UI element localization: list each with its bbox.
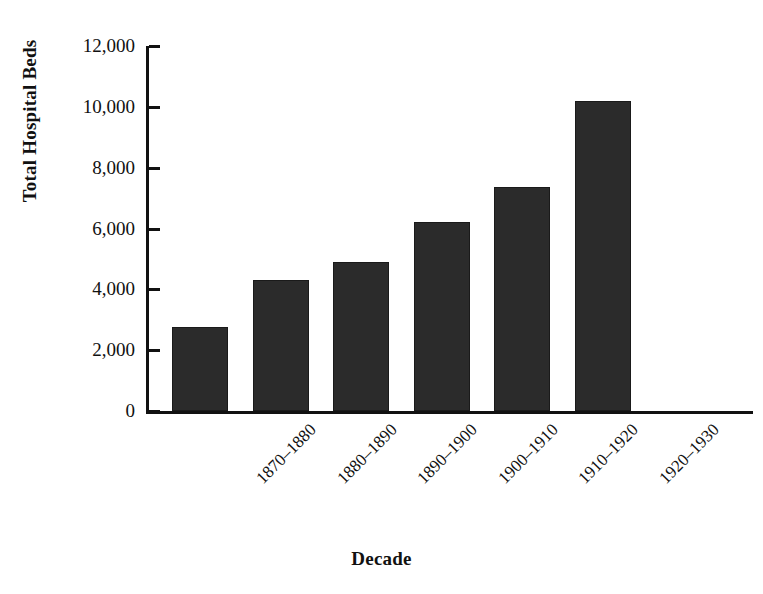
bar — [575, 101, 631, 411]
y-axis-title: Total Hospital Beds — [19, 11, 41, 231]
bar-chart: Total Hospital Beds 12,00010,0008,0006,0… — [0, 0, 763, 594]
y-axis-tick — [149, 167, 160, 170]
x-axis-tick-label: 1910–1920 — [574, 420, 642, 488]
x-axis-tick-label: 1880–1890 — [333, 420, 401, 488]
y-axis-tick — [149, 228, 160, 231]
plot-area: 12,00010,0008,0006,0004,0002,0000 1870–1… — [146, 46, 753, 414]
y-axis-tick-label: 4,000 — [92, 278, 135, 300]
y-axis-tick-label: 2,000 — [92, 339, 135, 361]
y-axis-tick-label: 12,000 — [83, 35, 135, 57]
x-axis-line — [146, 411, 753, 414]
y-axis-tick-label: 8,000 — [92, 157, 135, 179]
x-axis-tick-label: 1900–1910 — [494, 420, 562, 488]
y-axis-tick-label: 6,000 — [92, 218, 135, 240]
x-axis-title: Decade — [0, 548, 763, 570]
x-axis-tick-label: 1890–1900 — [413, 420, 481, 488]
y-axis-tick-label: 10,000 — [83, 96, 135, 118]
x-axis-tick-label: 1870–1880 — [252, 420, 320, 488]
bar — [494, 187, 550, 411]
y-axis-tick — [149, 45, 160, 48]
bar — [333, 262, 389, 411]
y-axis-tick — [149, 349, 160, 352]
y-axis-tick — [149, 288, 160, 291]
y-axis-tick-label: 0 — [126, 400, 136, 422]
x-axis-tick-label: 1920–1930 — [655, 420, 723, 488]
bar — [172, 327, 228, 411]
bar — [414, 222, 470, 411]
y-axis-tick — [149, 106, 160, 109]
bar — [253, 280, 309, 411]
y-axis-tick — [149, 410, 160, 413]
